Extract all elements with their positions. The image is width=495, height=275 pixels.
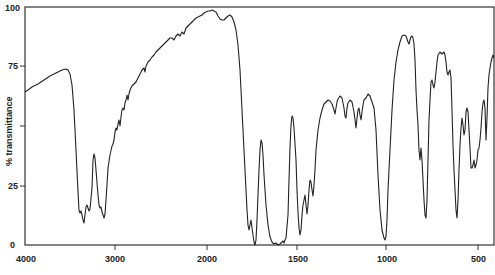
x-tick-1500: 1500: [288, 254, 308, 264]
y-tick-100: 100: [5, 3, 20, 13]
y-tick-25: 25: [8, 181, 18, 191]
y-tick-0: 0: [10, 240, 15, 250]
x-tick-2000: 2000: [197, 254, 217, 264]
y-axis: [20, 66, 25, 186]
y-tick-75: 75: [8, 61, 18, 71]
plot-frame: [25, 7, 494, 245]
x-tick-3000: 3000: [105, 254, 125, 264]
ir-spectrum-chart: 100 75 25 0 % transmittance 4000 3000 20…: [0, 0, 495, 275]
y-axis-title: % transmittance: [4, 96, 14, 166]
x-tick-labels: 4000 3000 2000 1500 1000 500: [16, 254, 486, 264]
x-tick-1000: 1000: [377, 254, 397, 264]
x-axis: [115, 245, 478, 250]
x-tick-500: 500: [471, 254, 486, 264]
x-tick-4000: 4000: [16, 254, 36, 264]
spectrum-line: [25, 10, 494, 245]
